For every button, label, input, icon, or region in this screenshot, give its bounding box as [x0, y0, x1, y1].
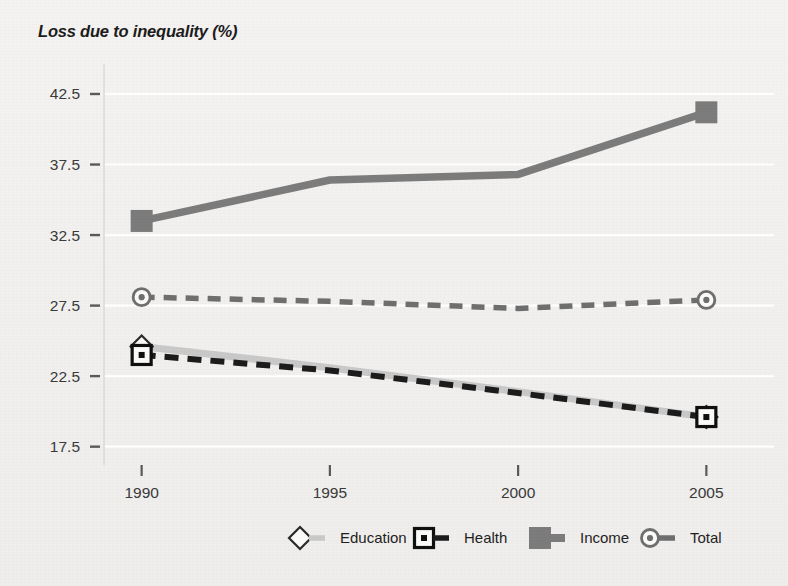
series-line [142, 297, 707, 308]
line-chart: 42.537.532.527.522.517.5 199019952000200… [0, 0, 788, 586]
legend-label: Total [690, 529, 722, 546]
gridlines [104, 94, 774, 447]
y-axis-tick-label: 27.5 [50, 297, 80, 314]
diamond-open-icon [289, 527, 311, 549]
series-income [142, 112, 707, 221]
y-axis-tick-label: 37.5 [50, 156, 80, 173]
legend-item-income[interactable]: Income [529, 527, 629, 549]
square-dot-icon [415, 529, 434, 548]
square-dot-icon [132, 345, 151, 364]
legend-label: Income [580, 529, 629, 546]
x-axis-tick-label: 2000 [501, 484, 536, 501]
y-axis-tick-label: 42.5 [50, 85, 80, 102]
circle-dot-icon [642, 530, 659, 547]
series-line [142, 355, 707, 417]
legend-item-total[interactable]: Total [642, 529, 722, 547]
chart-container: Loss due to inequality (%) 42.537.532.52… [0, 0, 788, 586]
legend-item-health[interactable]: Health [415, 529, 508, 548]
x-axis-tick-label: 1995 [313, 484, 347, 501]
data-series-group [131, 101, 718, 428]
square-filled-icon [529, 527, 551, 549]
square-filled-icon [695, 101, 717, 123]
y-axis-tick-label: 22.5 [50, 368, 80, 385]
y-axis-tick-label: 17.5 [50, 438, 80, 455]
y-axis-ticks [90, 94, 100, 447]
y-axis-tick-labels: 42.537.532.527.522.517.5 [50, 85, 80, 455]
legend-label: Education [340, 529, 407, 546]
series-line [142, 112, 707, 221]
circle-dot-icon [133, 289, 150, 306]
series-markers-income [131, 101, 718, 232]
circle-dot-icon [698, 291, 715, 308]
legend-item-education[interactable]: Education [289, 527, 407, 549]
y-axis-tick-label: 32.5 [50, 227, 80, 244]
square-filled-icon [131, 210, 153, 232]
legend-label: Health [464, 529, 507, 546]
chart-legend: EducationHealthIncomeTotal [289, 527, 722, 549]
series-health [142, 355, 707, 417]
square-dot-icon [697, 408, 716, 427]
x-axis-tick-labels: 1990199520002005 [124, 484, 723, 501]
series-total [142, 297, 707, 308]
x-axis-tick-label: 1990 [124, 484, 159, 501]
x-axis-ticks [142, 465, 707, 476]
x-axis-tick-label: 2005 [689, 484, 723, 501]
